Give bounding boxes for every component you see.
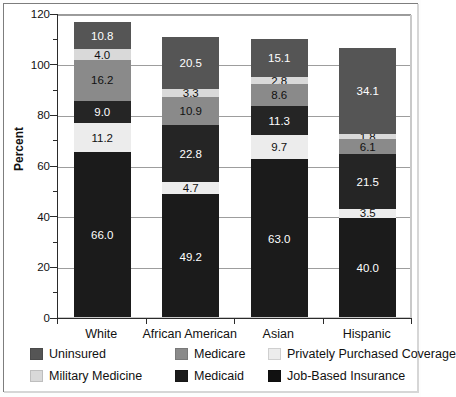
y-tick-40 <box>50 216 57 217</box>
bar-segment-medicaid[interactable]: 9.0 <box>74 101 131 124</box>
legend-label: Privately Purchased Coverage <box>287 347 456 361</box>
legend-swatch-icon <box>30 348 43 360</box>
legend-swatch-icon <box>30 370 43 382</box>
legend-item-medicaid[interactable]: Medicaid <box>175 369 244 383</box>
y-tick-100 <box>50 64 57 65</box>
bar-african-american[interactable]: 49.24.722.810.93.320.5 <box>162 15 219 319</box>
bar-value-label: 1.8 <box>339 134 396 139</box>
bar-value-label: 4.0 <box>74 49 131 59</box>
bar-value-label: 3.5 <box>339 209 396 218</box>
legend-label: Uninsured <box>49 347 106 361</box>
bar-segment-privately-purchased-coverage[interactable]: 9.7 <box>251 135 308 160</box>
bar-value-label: 15.1 <box>251 53 308 64</box>
bar-value-label: 9.7 <box>251 142 308 153</box>
bar-value-label: 40.0 <box>339 263 396 274</box>
bar-value-label: 22.8 <box>162 148 219 159</box>
x-tick-3 <box>323 318 324 324</box>
bar-segment-medicare[interactable]: 16.2 <box>74 60 131 101</box>
bar-white[interactable]: 66.011.29.016.24.010.8 <box>74 15 131 319</box>
bar-segment-privately-purchased-coverage[interactable]: 4.7 <box>162 182 219 194</box>
chart-legend: UninsuredMedicarePrivately Purchased Cov… <box>30 347 415 389</box>
legend-label: Military Medicine <box>49 369 142 383</box>
legend-label: Medicare <box>194 347 245 361</box>
bar-segment-medicaid[interactable]: 22.8 <box>162 125 219 183</box>
bar-asian[interactable]: 63.09.711.38.62.815.1 <box>251 15 308 319</box>
bar-value-label: 21.5 <box>339 176 396 187</box>
y-tick-60 <box>50 166 57 167</box>
bar-segment-military-medicine[interactable]: 4.0 <box>74 49 131 59</box>
x-tick-2 <box>234 318 235 324</box>
legend-label: Medicaid <box>194 369 244 383</box>
bar-segment-uninsured[interactable]: 20.5 <box>162 37 219 89</box>
bar-value-label: 10.9 <box>162 105 219 116</box>
bar-value-label: 16.2 <box>74 75 131 86</box>
bar-segment-medicare[interactable]: 8.6 <box>251 84 308 106</box>
legend-item-uninsured[interactable]: Uninsured <box>30 347 106 361</box>
legend-swatch-icon <box>268 370 281 382</box>
bar-segment-military-medicine[interactable]: 2.8 <box>251 77 308 84</box>
legend-swatch-icon <box>175 370 188 382</box>
y-tick-0 <box>50 318 57 319</box>
bar-segment-job-based-insurance[interactable]: 63.0 <box>251 159 308 319</box>
bar-segment-privately-purchased-coverage[interactable]: 11.2 <box>74 123 131 151</box>
x-tick-0 <box>57 318 58 324</box>
x-tick-end <box>411 318 412 324</box>
bar-value-label: 9.0 <box>74 107 131 118</box>
bar-segment-medicare[interactable]: 6.1 <box>339 139 396 154</box>
legend-item-privately-purchased-coverage[interactable]: Privately Purchased Coverage <box>268 347 456 361</box>
y-tick-20 <box>50 267 57 268</box>
y-tick-120 <box>50 14 57 15</box>
y-axis-line <box>57 14 58 318</box>
bar-value-label: 4.7 <box>162 183 219 194</box>
bar-segment-job-based-insurance[interactable]: 66.0 <box>74 152 131 319</box>
bar-segment-uninsured[interactable]: 34.1 <box>339 48 396 134</box>
bar-hispanic[interactable]: 40.03.521.56.11.834.1 <box>339 15 396 319</box>
y-tick-80 <box>50 115 57 116</box>
y-tick-label-120: 120 <box>6 9 50 19</box>
bar-value-label: 10.8 <box>74 30 131 41</box>
y-tick-label-20: 20 <box>6 262 50 272</box>
bar-segment-military-medicine[interactable]: 3.3 <box>162 89 219 97</box>
bar-value-label: 2.8 <box>251 77 308 84</box>
y-axis-title: Percent <box>12 94 26 204</box>
legend-swatch-icon <box>175 348 188 360</box>
bar-value-label: 20.5 <box>162 57 219 68</box>
bar-value-label: 8.6 <box>251 90 308 101</box>
y-tick-label-100: 100 <box>6 60 50 70</box>
x-tick-1 <box>146 318 147 324</box>
bar-segment-job-based-insurance[interactable]: 49.2 <box>162 194 219 319</box>
bar-segment-uninsured[interactable]: 10.8 <box>74 22 131 49</box>
legend-label: Job-Based Insurance <box>287 369 405 383</box>
x-tick-label-hispanic: Hispanic <box>297 327 437 341</box>
y-tick-label-40: 40 <box>6 212 50 222</box>
bar-segment-military-medicine[interactable]: 1.8 <box>339 134 396 139</box>
bar-value-label: 34.1 <box>339 86 396 97</box>
bar-segment-medicaid[interactable]: 21.5 <box>339 154 396 208</box>
legend-item-medicare[interactable]: Medicare <box>175 347 245 361</box>
bar-segment-job-based-insurance[interactable]: 40.0 <box>339 218 396 319</box>
plot-area: 66.011.29.016.24.010.849.24.722.810.93.3… <box>57 14 411 318</box>
legend-swatch-icon <box>268 348 281 360</box>
bar-segment-uninsured[interactable]: 15.1 <box>251 39 308 77</box>
bar-value-label: 11.3 <box>251 115 308 126</box>
bar-value-label: 66.0 <box>74 230 131 241</box>
legend-item-job-based-insurance[interactable]: Job-Based Insurance <box>268 369 405 383</box>
bar-value-label: 6.1 <box>339 141 396 152</box>
y-tick-label-0: 0 <box>6 313 50 323</box>
bar-value-label: 3.3 <box>162 89 219 97</box>
bar-segment-medicare[interactable]: 10.9 <box>162 97 219 125</box>
bar-value-label: 63.0 <box>251 234 308 245</box>
bar-segment-privately-purchased-coverage[interactable]: 3.5 <box>339 209 396 218</box>
bar-value-label: 49.2 <box>162 251 219 262</box>
legend-item-military-medicine[interactable]: Military Medicine <box>30 369 142 383</box>
bar-value-label: 11.2 <box>74 132 131 143</box>
bar-segment-medicaid[interactable]: 11.3 <box>251 106 308 135</box>
